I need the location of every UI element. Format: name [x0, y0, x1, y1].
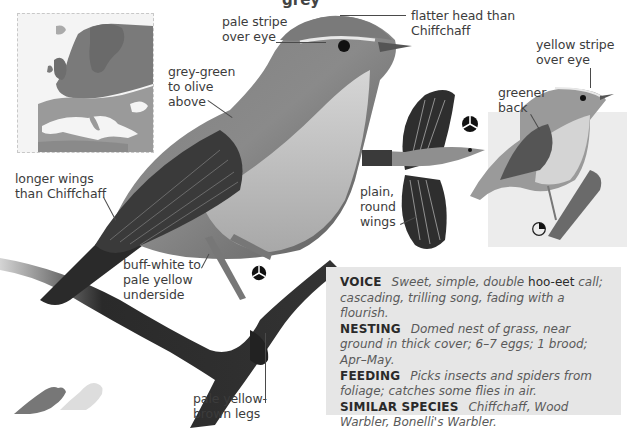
- leader-line-legs: [265, 333, 266, 403]
- info-similar-key: SIMILAR SPECIES: [340, 400, 459, 414]
- label-grey-green: grey-green to olive above: [168, 64, 235, 109]
- info-voice: VOICE Sweet, simple, double hoo-eet call…: [340, 275, 611, 322]
- label-greener-back: greener back: [498, 85, 546, 115]
- label-longer-wings: longer wings than Chiffchaff: [15, 171, 106, 201]
- label-buff-white: buff-white to pale yellow underside: [123, 257, 201, 302]
- info-nesting: NESTING Domed nest of grass, near ground…: [340, 322, 611, 369]
- leader-line-yellow-stripe: [590, 68, 591, 88]
- juvenile-symbol-icon: [530, 220, 548, 238]
- size-silhouette-small: [14, 387, 66, 414]
- species-info-box: VOICE Sweet, simple, double hoo-eet call…: [326, 267, 621, 415]
- call-notation: hoo-eet: [528, 275, 574, 289]
- info-feeding-key: FEEDING: [340, 369, 400, 383]
- leader-line-pale-stripe: [276, 42, 326, 43]
- sex-symbol-flight-icon: [460, 114, 480, 134]
- info-feeding: FEEDING Picks insects and spiders from f…: [340, 369, 611, 400]
- label-pale-stripe: pale stripe over eye: [222, 14, 287, 44]
- sex-symbol-main-icon: [250, 264, 268, 282]
- leader-line-flatter-head: [340, 15, 406, 16]
- size-silhouette-ref: [60, 383, 103, 410]
- label-round-wings: plain, round wings: [360, 184, 396, 229]
- info-nesting-key: NESTING: [340, 322, 401, 336]
- label-flatter-head: flatter head than Chiffchaff: [411, 8, 515, 38]
- label-legs: pale yellow- brown legs: [193, 391, 267, 421]
- info-similar-species: SIMILAR SPECIES Chiffchaff, Wood Warbler…: [340, 400, 611, 428]
- info-voice-key: VOICE: [340, 275, 382, 289]
- label-yellow-stripe: yellow stripe over eye: [536, 37, 614, 67]
